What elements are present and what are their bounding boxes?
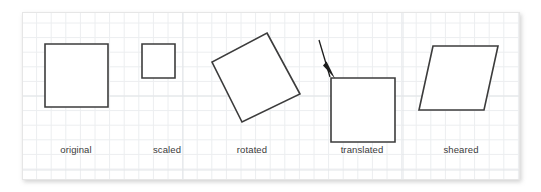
figure-container: original scaled rotated translated shear… [0,0,541,192]
shape-original [45,44,108,107]
shape-sheared [419,46,498,110]
shape-scaled [142,44,175,78]
label-rotated: rotated [237,144,267,155]
shape-translated [331,78,395,142]
label-scaled: scaled [153,144,181,155]
label-original: original [60,144,91,155]
label-translated: translated [341,144,384,155]
transformations-figure: original scaled rotated translated shear… [0,0,541,192]
label-sheared: sheared [443,144,478,155]
